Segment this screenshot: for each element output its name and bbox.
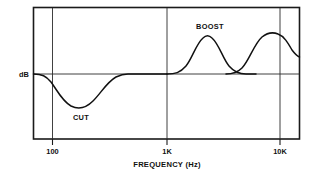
x-axis-title: FREQUENCY (Hz)	[133, 160, 201, 169]
tick-label-100hz: 100	[46, 147, 58, 156]
annotation-boost: BOOST	[196, 22, 224, 31]
y-axis-label: dB	[19, 70, 29, 79]
curve-cut-band	[34, 74, 168, 108]
annotation-cut: CUT	[73, 113, 89, 122]
tick-label-1k: 1K	[162, 147, 172, 156]
tick-label-10k: 10K	[273, 147, 287, 156]
curve-boost-band-high	[226, 33, 300, 74]
eq-response-chart: dB 100 1K 10K FREQUENCY (Hz) CUT BOOST	[0, 0, 315, 183]
eq-response-plot: dB 100 1K 10K FREQUENCY (Hz) CUT BOOST	[0, 0, 315, 183]
